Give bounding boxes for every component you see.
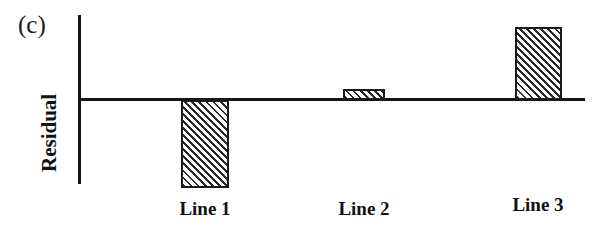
x-tick-label-line-1: Line 1: [135, 199, 275, 218]
x-tick-label-line-3: Line 3: [468, 195, 608, 214]
bar-line-3: [515, 27, 562, 100]
residual-bar-chart-figure: (c) Residual Line 1 Line 2 Line 3: [0, 0, 611, 229]
plot-area: Line 1 Line 2 Line 3: [0, 0, 611, 229]
x-tick-label-line-2: Line 2: [294, 199, 434, 218]
bar-line-1: [181, 100, 229, 188]
bar-line-2: [343, 89, 385, 100]
